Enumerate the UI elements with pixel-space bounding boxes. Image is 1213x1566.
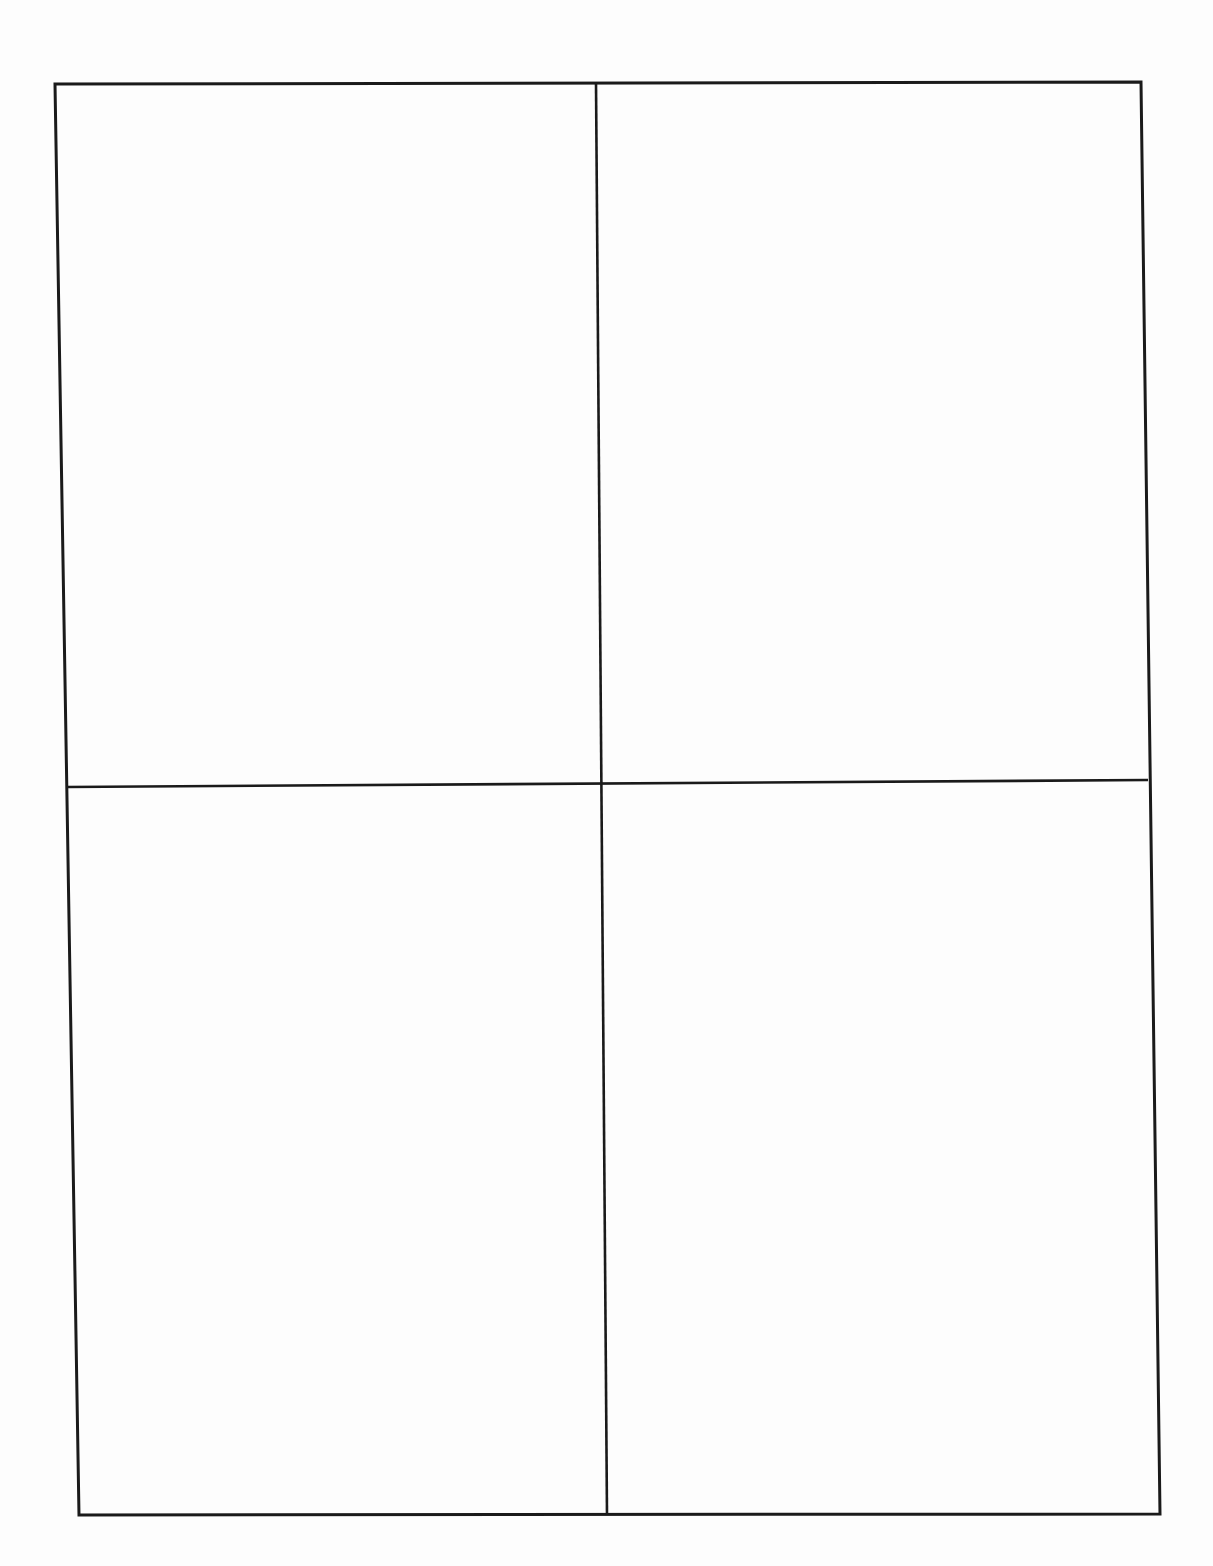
cell-top-left xyxy=(60,88,594,783)
cell-bottom-left xyxy=(72,790,604,1512)
document-page xyxy=(0,0,1213,1566)
cell-top-right xyxy=(602,86,1140,778)
cell-bottom-right xyxy=(609,784,1155,1512)
